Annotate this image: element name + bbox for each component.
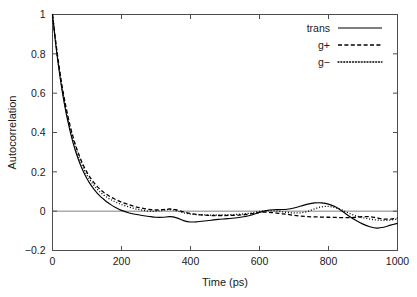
x-tick-label: 800 <box>320 255 338 267</box>
y-tick-label: 0.6 <box>31 87 46 99</box>
chart-legend: transg+g− <box>307 22 382 68</box>
x-tick-label: 400 <box>182 255 200 267</box>
x-axis-title: Time (ps) <box>202 276 248 288</box>
y-axis-title: Autocorrelation <box>6 96 18 170</box>
data-series-group <box>53 15 398 229</box>
y-tick-label: −0.2 <box>25 244 46 256</box>
x-tick-label: 0 <box>50 255 56 267</box>
y-tick-label: 0.8 <box>31 48 46 60</box>
y-axis-tick-labels: −0.200.20.40.60.81 <box>25 8 46 256</box>
autocorrelation-chart-figure: 02004006008001000 −0.200.20.40.60.81 Tim… <box>0 0 417 297</box>
y-tick-label: 0.4 <box>31 126 46 138</box>
x-tick-label: 200 <box>113 255 131 267</box>
x-tick-label: 1000 <box>386 255 410 267</box>
x-tick-label: 600 <box>251 255 269 267</box>
chart-canvas: 02004006008001000 −0.200.20.40.60.81 Tim… <box>0 0 417 297</box>
y-tick-label: 0 <box>40 205 46 217</box>
legend-label-gminus: g− <box>318 56 330 68</box>
legend-label-gplus: g+ <box>318 39 330 51</box>
legend-label-trans: trans <box>307 22 330 34</box>
x-axis-tick-labels: 02004006008001000 <box>50 255 410 267</box>
y-tick-label: 1 <box>40 8 46 20</box>
y-tick-label: 0.2 <box>31 166 46 178</box>
